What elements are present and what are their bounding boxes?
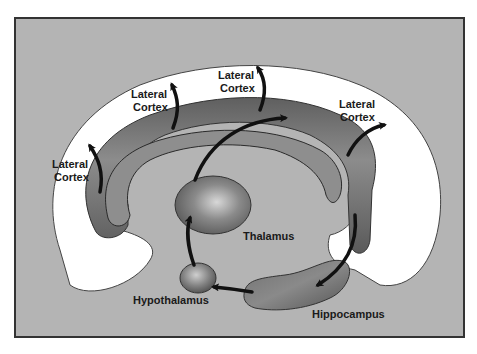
- label-lateral-cortex-3: Lateral Cortex: [218, 69, 257, 94]
- label-hypothalamus: Hypothalamus: [133, 294, 209, 306]
- thalamus-shape[interactable]: [175, 176, 251, 234]
- label-lateral-cortex-1: Lateral Cortex: [52, 158, 91, 183]
- label-lateral-cortex-4: Lateral Cortex: [339, 98, 378, 123]
- hypothalamus-shape[interactable]: [180, 263, 216, 293]
- circuit-diagram: Lateral Cortex Lateral Cortex Lateral Co…: [0, 0, 477, 354]
- label-hippocampus: Hippocampus: [312, 308, 385, 320]
- label-lateral-cortex-2: Lateral Cortex: [131, 88, 170, 113]
- label-thalamus: Thalamus: [243, 230, 294, 242]
